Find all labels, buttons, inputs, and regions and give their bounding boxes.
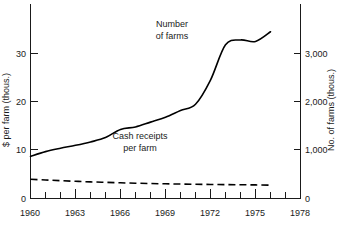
cash-receipts-label-line1: Cash receipts: [112, 131, 168, 141]
x-axis-tick-labels: 1960 1963 1966 1969 1972 1975 1978: [20, 208, 310, 218]
chart-container: 30 20 10 0 3,000 2,000 1,000 0 1960 1963…: [0, 0, 341, 226]
right-tick-label-0: 0: [305, 194, 310, 204]
x-tick-label-1966: 1966: [110, 208, 130, 218]
x-axis-ticks: [46, 189, 286, 199]
farm-statistics-chart: 30 20 10 0 3,000 2,000 1,000 0 1960 1963…: [0, 0, 341, 226]
left-tick-label-30: 30: [16, 49, 26, 59]
right-axis-title: No. of farms (thous.): [326, 69, 336, 151]
right-axis-tick-labels: 3,000 2,000 1,000 0: [305, 49, 328, 204]
left-tick-label-0: 0: [21, 194, 26, 204]
right-tick-label-3000: 3,000: [305, 49, 328, 59]
right-tick-label-1000: 1,000: [305, 145, 328, 155]
left-axis-tick-labels: 30 20 10 0: [16, 49, 26, 204]
x-tick-label-1963: 1963: [65, 208, 85, 218]
number-of-farms-label-line1: Number: [156, 19, 188, 29]
x-tick-label-1969: 1969: [155, 208, 175, 218]
left-axis-title: $ per farm (thous.): [1, 73, 11, 147]
x-tick-label-1978: 1978: [290, 208, 310, 218]
left-tick-label-10: 10: [16, 145, 26, 155]
x-tick-label-1975: 1975: [245, 208, 265, 218]
annotation-number-of-farms: Number of farms: [156, 19, 189, 41]
x-tick-label-1972: 1972: [200, 208, 220, 218]
data-series-group: [31, 32, 271, 185]
right-axis-ticks: [294, 54, 301, 150]
annotation-cash-receipts: Cash receipts per farm: [112, 131, 168, 153]
left-axis-ticks: [31, 54, 38, 150]
cash-receipts-label-line2: per farm: [123, 143, 157, 153]
right-tick-label-2000: 2,000: [305, 97, 328, 107]
series-line-number-of-farms: [31, 179, 271, 185]
x-tick-label-1960: 1960: [20, 208, 40, 218]
number-of-farms-label-line2: of farms: [156, 31, 189, 41]
left-tick-label-20: 20: [16, 97, 26, 107]
